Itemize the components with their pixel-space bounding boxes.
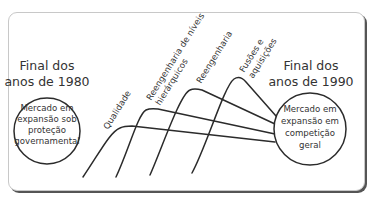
wave-label-reengenharia: Reengenharia <box>194 29 234 85</box>
left-circle-text-line1: Mercado em <box>20 103 73 113</box>
wave-label-reengenharia-niveis-line1: Reengenharia de níveis <box>144 11 206 102</box>
management-waves-diagram: Final dos anos de 1980 Final dos anos de… <box>0 0 379 208</box>
left-era-label-line2: anos de 1980 <box>4 74 89 89</box>
right-era-label-line1: Final dos <box>284 58 339 73</box>
right-era-label-line2: anos de 1990 <box>268 74 353 89</box>
wave-curve-reengenharia <box>150 89 275 175</box>
right-circle-text-line1: Mercado em <box>283 104 336 114</box>
right-circle-text-line4: geral <box>299 140 321 150</box>
left-circle-text-line2: expansão sob <box>17 114 76 124</box>
right-circle-text-line3: competição <box>285 128 335 138</box>
right-circle-text-line2: expansão em <box>281 116 339 126</box>
wave-label-qualidade: Qualidade <box>101 89 133 131</box>
left-circle-text-line4: governamental <box>14 136 79 146</box>
left-era-label-line1: Final dos <box>20 58 75 73</box>
left-circle-text-line3: proteção <box>28 125 66 135</box>
wave-curve-qualidade <box>83 126 275 177</box>
